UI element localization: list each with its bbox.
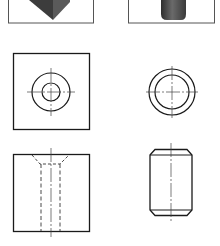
block-outline <box>14 155 90 232</box>
block-face-left <box>29 0 53 20</box>
part-a-front-view <box>14 148 90 237</box>
part-b-top-view <box>146 66 198 118</box>
countersink-hidden-line <box>32 155 69 164</box>
part-b-3d-panel <box>129 0 215 23</box>
part-a-top-view <box>14 54 90 130</box>
block-outline <box>14 54 90 130</box>
block-face-right <box>53 0 70 20</box>
part-b-front-view <box>150 143 192 221</box>
part-a-3d-panel <box>9 0 94 23</box>
cylinder-body <box>161 0 186 20</box>
technical-drawing <box>0 0 220 246</box>
